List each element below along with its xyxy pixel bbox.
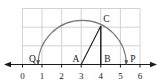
axis-arrow-left-icon — [4, 62, 11, 67]
point-arrow-P-icon — [124, 60, 128, 64]
geometry-figure: 0 1 2 3 4 5 6 Q A B P C — [0, 0, 161, 84]
axis-arrow-right-icon — [150, 62, 157, 67]
segment-AC — [81, 26, 101, 65]
grid-lines — [23, 9, 141, 65]
point-label-P: P — [130, 54, 135, 64]
axis-tick-label-4: 4 — [99, 71, 104, 81]
point-label-C: C — [103, 14, 109, 24]
axis-tick-label-5: 5 — [118, 71, 123, 81]
figure-canvas: 0 1 2 3 4 5 6 Q A B P C — [0, 0, 161, 84]
point-label-B: B — [104, 54, 110, 64]
axis-tick-label-1: 1 — [40, 71, 45, 81]
axis-tick-label-0: 0 — [20, 71, 25, 81]
point-label-Q: Q — [29, 54, 36, 64]
point-labels: Q A B P C — [29, 14, 136, 64]
axis-tick-label-6: 6 — [138, 71, 143, 81]
axis-tick-label-2: 2 — [59, 71, 64, 81]
axis-tick-label-3: 3 — [79, 71, 84, 81]
x-axis: 0 1 2 3 4 5 6 — [4, 62, 157, 81]
segments — [81, 26, 101, 65]
point-arrow-Q-icon — [36, 60, 40, 64]
point-label-A: A — [73, 54, 80, 64]
